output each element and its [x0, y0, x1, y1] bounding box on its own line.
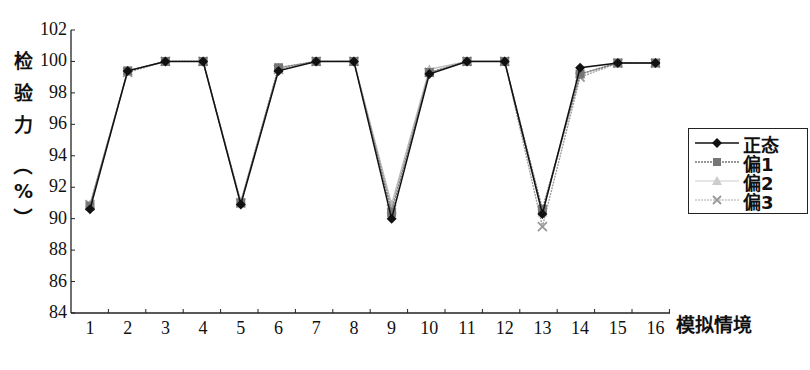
y-tick-label: 86	[27, 271, 67, 292]
data-point-marker	[538, 222, 547, 231]
triangle-marker-icon	[693, 173, 741, 189]
series-layer	[85, 56, 661, 231]
x-tick-label: 3	[150, 318, 180, 339]
y-tick-label: 96	[27, 113, 67, 134]
x-tick-label: 13	[527, 318, 557, 339]
x-tick-label: 2	[113, 318, 143, 339]
y-tick-label: 84	[27, 302, 67, 323]
x-tick-label: 1	[75, 318, 105, 339]
legend-item-skew3: 偏3	[693, 190, 805, 210]
y-tick-label: 100	[27, 50, 67, 71]
x-axis-label: 模拟情境	[676, 310, 752, 337]
y-tick-label: 92	[27, 176, 67, 197]
y-tick-label: 88	[27, 239, 67, 260]
y-tick-label: 90	[27, 208, 67, 229]
x-tick-label: 5	[226, 318, 256, 339]
legend: 正态 偏1 偏2 偏3	[688, 128, 808, 214]
square-marker-icon	[693, 154, 741, 170]
x-tick-label: 9	[377, 318, 407, 339]
x-tick-label: 12	[490, 318, 520, 339]
x-tick-label: 10	[414, 318, 444, 339]
x-tick-label: 4	[188, 318, 218, 339]
y-tick-label: 102	[27, 19, 67, 40]
x-tick-label: 11	[452, 318, 482, 339]
series-line	[90, 61, 656, 226]
legend-label: 偏3	[743, 188, 774, 214]
diamond-marker-icon	[693, 135, 741, 151]
x-tick-label: 15	[603, 318, 633, 339]
x-tick-label: 16	[641, 318, 671, 339]
x-tick-label: 14	[565, 318, 595, 339]
x-tick-label: 8	[339, 318, 369, 339]
y-tick-label: 94	[27, 145, 67, 166]
series-line	[90, 61, 656, 218]
y-tick-label: 98	[27, 82, 67, 103]
x-marker-icon	[693, 192, 741, 208]
x-tick-label: 6	[264, 318, 294, 339]
x-tick-label: 7	[301, 318, 331, 339]
